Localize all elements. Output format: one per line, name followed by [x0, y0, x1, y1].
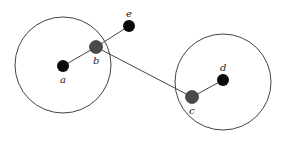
label-a: a [60, 74, 66, 85]
node-a [57, 60, 69, 72]
label-b: b [93, 55, 99, 66]
node-b [90, 41, 103, 54]
label-e: e [126, 8, 132, 19]
label-d: d [220, 62, 226, 73]
label-c: c [189, 105, 195, 116]
diagram-canvas: a b c d e [0, 0, 281, 142]
node-e [123, 20, 135, 32]
node-c [186, 91, 199, 104]
node-d [217, 74, 229, 86]
